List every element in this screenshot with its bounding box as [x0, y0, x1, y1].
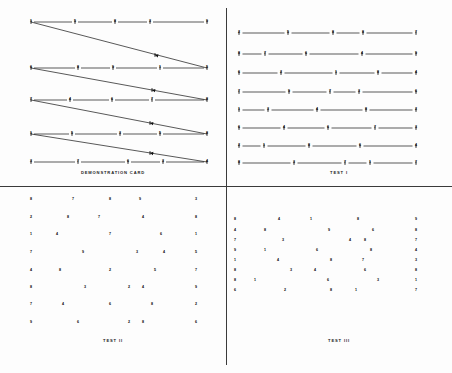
test-three-node: 1: [264, 249, 266, 253]
test-three-node: 8: [415, 229, 417, 233]
test-three-node: 1: [254, 279, 256, 283]
test-two-node: 8: [59, 269, 61, 273]
caption-test-three: TEST III: [226, 338, 452, 343]
demonstration-node: 1: [30, 20, 32, 24]
test-two-node: 6: [109, 303, 111, 307]
return-diagonal: [31, 68, 207, 100]
test-one-node: 1: [335, 71, 337, 75]
test-three-node: 7: [234, 239, 236, 243]
test-three-node: 9: [415, 218, 417, 222]
test-one-node: 4: [415, 71, 417, 75]
demonstration-node: 8: [206, 98, 208, 102]
test-one-node: 3: [415, 126, 417, 130]
test-one-connector-lines: [226, 0, 452, 186]
test-three-node: 6: [316, 249, 318, 253]
test-one-node: 8: [308, 144, 310, 148]
test-one-node: 8: [365, 108, 367, 112]
test-three-node: 4: [278, 218, 280, 222]
return-diagonal: [31, 134, 207, 162]
test-one-node: 8: [238, 52, 240, 56]
test-three-node: 4: [349, 239, 351, 243]
demonstration-node: 3: [149, 20, 151, 24]
demonstration-node: 4: [69, 98, 71, 102]
test-two-node: 4: [142, 216, 144, 220]
test-two-node: 2: [128, 321, 130, 325]
test-one-node: 2: [280, 71, 282, 75]
test-one-node: 6: [327, 126, 329, 130]
test-one-node: 6: [238, 71, 240, 75]
test-two-node: 6: [160, 233, 162, 237]
test-three-node: 9: [234, 249, 236, 253]
return-diagonal: [31, 100, 207, 134]
test-one-node: 6: [305, 52, 307, 56]
test-two-node: 4: [62, 303, 64, 307]
demonstration-node: 9: [112, 66, 114, 70]
test-two-node: 4: [56, 233, 58, 237]
test-one-node: 4: [283, 126, 285, 130]
test-three-node: 3: [377, 279, 379, 283]
test-three-node: 8: [415, 269, 417, 273]
test-three-node: 8: [234, 279, 236, 283]
test-three-node: 8: [330, 289, 332, 293]
test-one-node: 9: [415, 52, 417, 56]
test-one-node: 1: [369, 161, 371, 165]
test-one-node: 7: [238, 90, 240, 94]
test-one-node: 1: [263, 144, 265, 148]
test-two-node: 7: [98, 216, 100, 220]
test-three-node: 7: [362, 259, 364, 263]
test-two-node: 8: [151, 303, 153, 307]
test-two-node: 7: [72, 198, 74, 202]
test-one-node: 7: [344, 161, 346, 165]
panel-demonstration-card: 1583968915746781535837634 DEMONSTRATION …: [0, 0, 226, 186]
test-three-node: 6: [327, 279, 329, 283]
demonstration-node: 7: [30, 98, 32, 102]
test-two-node: 4: [163, 251, 165, 255]
test-one-node: 8: [238, 161, 240, 165]
test-one-node: 6: [238, 126, 240, 130]
test-one-node: 3: [358, 90, 360, 94]
test-one-node: 4: [316, 108, 318, 112]
test-one-node: 7: [415, 31, 417, 35]
demonstration-node: 7: [77, 160, 79, 164]
test-three-node: 8: [234, 218, 236, 222]
test-three-node: 4: [277, 259, 279, 263]
test-three-node: 8: [370, 249, 372, 253]
test-two-node: 8: [30, 198, 32, 202]
test-three-node: 8: [330, 259, 332, 263]
test-two-node: 3: [136, 251, 138, 255]
test-three-node: 7: [415, 239, 417, 243]
demonstration-node: 6: [127, 160, 129, 164]
test-one-node: 4: [361, 52, 363, 56]
test-three-node: 7: [415, 289, 417, 293]
demonstration-node: 8: [206, 132, 208, 136]
demonstration-node: 3: [30, 160, 32, 164]
test-one-node: 5: [287, 31, 289, 35]
test-two-node: 3: [195, 198, 197, 202]
test-one-node: 6: [359, 144, 361, 148]
test-three-node: 1: [355, 289, 357, 293]
test-three-node: 3: [290, 269, 292, 273]
test-two-node: 8: [67, 216, 69, 220]
test-two-node: 9: [139, 198, 141, 202]
test-three-node: 2: [284, 289, 286, 293]
test-two-node: 2: [128, 286, 130, 290]
test-two-node: 8: [195, 216, 197, 220]
test-sheet: 1583968915746781535837634 DEMONSTRATION …: [0, 0, 452, 373]
demonstration-node: 1: [30, 132, 32, 136]
demonstration-node: 9: [206, 20, 208, 24]
test-one-node: 2: [238, 31, 240, 35]
test-three-node: 8: [364, 239, 366, 243]
test-one-node: 7: [329, 90, 331, 94]
test-one-node: 8: [332, 31, 334, 35]
caption-test-one: TEST I: [226, 170, 452, 175]
test-three-node: 4: [415, 249, 417, 253]
test-one-node: 8: [377, 71, 379, 75]
test-two-node: 7: [109, 233, 111, 237]
test-two-node: 1: [30, 233, 32, 237]
test-one-node: 8: [362, 31, 364, 35]
test-one-node: 2: [415, 108, 417, 112]
demonstration-node: 8: [114, 20, 116, 24]
caption-test-two: TEST II: [0, 338, 226, 343]
test-two-node: 5: [195, 251, 197, 255]
test-two-node: 6: [195, 321, 197, 325]
